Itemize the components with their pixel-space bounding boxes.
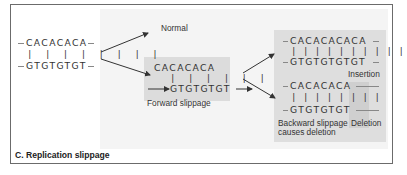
arrow-to-forward-slippage [101,59,150,75]
arrow-to-insertion [243,54,274,73]
arrows [0,0,407,175]
arrow-to-normal [101,33,148,52]
